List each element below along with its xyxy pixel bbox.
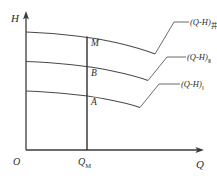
series-label-two-base: (Q-H) (187, 52, 208, 62)
x-axis (26, 147, 204, 153)
series-label-parallel: (Q-H)并 (190, 17, 217, 30)
point-label-b: B (91, 68, 97, 78)
y-axis-label: H (10, 12, 20, 24)
series-label-one: (Q-H)Ⅰ (181, 79, 204, 91)
x-axis-label: Q (196, 158, 204, 170)
series-label-two: (Q-H)Ⅱ (187, 52, 211, 64)
series-label-two-subscript: Ⅱ (208, 58, 211, 64)
x-tick-label-qm-subscript: M (85, 162, 91, 169)
leader-lines (140, 22, 189, 108)
leader-line-one (140, 84, 180, 108)
qh-characteristic-figure: H Q O QM M B A (Q-H)并 (Q-H)Ⅱ (Q-H)Ⅰ (0, 0, 217, 179)
curve-qh-one (26, 91, 140, 108)
point-label-a: A (90, 97, 97, 107)
leader-line-two (148, 57, 186, 81)
series-label-parallel-base: (Q-H) (190, 17, 211, 27)
x-tick-label-qm: QM (78, 156, 91, 169)
point-label-m: M (90, 38, 100, 48)
series-label-one-base: (Q-H) (181, 79, 202, 89)
origin-label: O (13, 156, 20, 167)
leader-line-parallel (155, 22, 189, 54)
series-label-one-subscript: Ⅰ (202, 85, 204, 91)
series-label-parallel-subscript: 并 (211, 21, 217, 30)
